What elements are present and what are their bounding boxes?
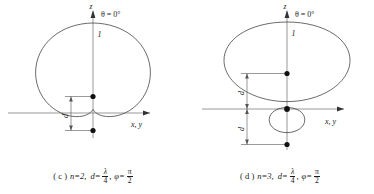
unit-tick-label-c: 1 bbox=[98, 30, 102, 39]
caption-d-label-d: d= bbox=[278, 171, 288, 181]
caption-n-d: n=3, bbox=[257, 171, 273, 181]
xy-axis-label-c: x, y bbox=[130, 120, 143, 129]
fraction-denominator: 2 bbox=[314, 176, 320, 185]
fraction-denominator: 4 bbox=[290, 176, 296, 185]
caption-n-c: n=2, bbox=[70, 171, 86, 181]
caption-tag-d: ( d ) bbox=[240, 171, 254, 181]
fraction-numerator: λ bbox=[103, 168, 108, 176]
caption-phi-fraction-d: π 2 bbox=[314, 168, 320, 185]
fraction-denominator: 4 bbox=[102, 176, 108, 185]
array-element-marker bbox=[90, 128, 95, 133]
fraction-numerator: π bbox=[314, 168, 320, 176]
plot-area-d: 1 z θ = 0° x, y d bbox=[187, 0, 374, 158]
caption-phi-label-d: φ= bbox=[302, 171, 312, 181]
figure-row: 1 z θ = 0° x, y d bbox=[0, 0, 374, 194]
panel-c: 1 z θ = 0° x, y d bbox=[0, 0, 187, 194]
theta-zero-label-c: θ = 0° bbox=[101, 10, 121, 19]
caption-d-label-c: d= bbox=[90, 171, 100, 181]
spacing-annotation-c: d bbox=[61, 97, 94, 131]
array-element-marker bbox=[284, 106, 290, 112]
spacing-annotation-d-upper: d bbox=[237, 74, 288, 110]
caption-phi-fraction-c: π 2 bbox=[127, 168, 133, 185]
fraction-numerator: π bbox=[127, 168, 133, 176]
z-axis-c bbox=[91, 10, 96, 138]
fraction-denominator: 2 bbox=[127, 176, 133, 185]
panel-d: 1 z θ = 0° x, y d bbox=[187, 0, 374, 194]
caption-phi-label-c: φ= bbox=[114, 171, 124, 181]
caption-c: ( c ) n=2, d= λ 4 , φ= π 2 bbox=[0, 158, 187, 194]
unit-tick-label-d: 1 bbox=[292, 29, 296, 38]
z-axis-d bbox=[285, 10, 290, 150]
array-element-marker bbox=[284, 71, 289, 76]
x-axis-d bbox=[202, 107, 344, 112]
z-axis-label-d: z bbox=[283, 2, 287, 11]
caption-d-fraction-d: λ 4 bbox=[290, 168, 296, 185]
caption-comma-c: , bbox=[109, 171, 111, 181]
spacing-label-d-2: d bbox=[237, 126, 246, 131]
xy-axis-label-d: x, y bbox=[324, 117, 337, 126]
polar-plot-d: 1 z θ = 0° x, y d bbox=[187, 0, 374, 158]
spacing-annotation-d-lower: d bbox=[237, 109, 288, 145]
caption-comma-d: , bbox=[296, 171, 298, 181]
fraction-numerator: λ bbox=[290, 168, 295, 176]
array-element-marker bbox=[284, 142, 289, 147]
plot-area-c: 1 z θ = 0° x, y d bbox=[0, 0, 187, 158]
array-element-marker bbox=[90, 94, 95, 99]
theta-zero-label-d: θ = 0° bbox=[295, 10, 315, 19]
polar-plot-c: 1 z θ = 0° x, y d bbox=[0, 0, 187, 158]
z-axis-label-c: z bbox=[89, 2, 93, 11]
caption-d: ( d ) n=3, d= λ 4 , φ= π 2 bbox=[187, 158, 374, 194]
caption-d-fraction-c: λ 4 bbox=[102, 168, 108, 185]
caption-tag-c: ( c ) bbox=[53, 171, 67, 181]
